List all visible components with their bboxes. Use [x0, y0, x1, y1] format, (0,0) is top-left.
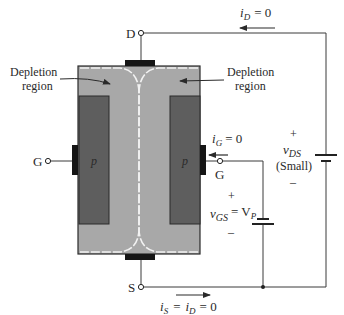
gate-contact-right [200, 145, 206, 175]
vgs-minus: – [227, 225, 235, 239]
vds-minus: – [289, 175, 297, 189]
p-label-left: p [90, 154, 97, 168]
depletion-label-left-line2: region [22, 79, 53, 93]
drain-terminal [138, 30, 143, 35]
gate-terminal-right [217, 158, 222, 163]
source-terminal [138, 284, 143, 289]
gate-label-left: G [33, 154, 42, 169]
vds-plus: + [290, 127, 297, 141]
drain-label: D [126, 26, 135, 41]
vds-label: vDS [283, 142, 301, 159]
depletion-label-right-line1: Depletion [227, 65, 274, 79]
vgs-label: vGS= VP [210, 204, 257, 223]
gate-label-right: G [215, 167, 224, 182]
p-label-right: p [181, 154, 188, 168]
gate-terminal-left [45, 158, 50, 163]
junction-dot [261, 285, 265, 289]
depletion-label-left-line1: Depletion [10, 65, 57, 79]
source-contact [125, 254, 155, 260]
gate-contact-left [72, 145, 78, 175]
vds-battery [315, 155, 337, 161]
depletion-label-right-line2: region [235, 79, 266, 93]
source-label: S [128, 280, 135, 295]
drain-contact [125, 60, 155, 66]
vds-note: (Small) [276, 159, 312, 173]
vgs-plus: + [228, 189, 235, 203]
id-label: iD= 0 [240, 5, 271, 22]
jfet-diagram: p p D S G G [0, 0, 344, 315]
ig-label: iG= 0 [212, 131, 242, 148]
is-label: iS=iD= 0 [160, 299, 217, 315]
